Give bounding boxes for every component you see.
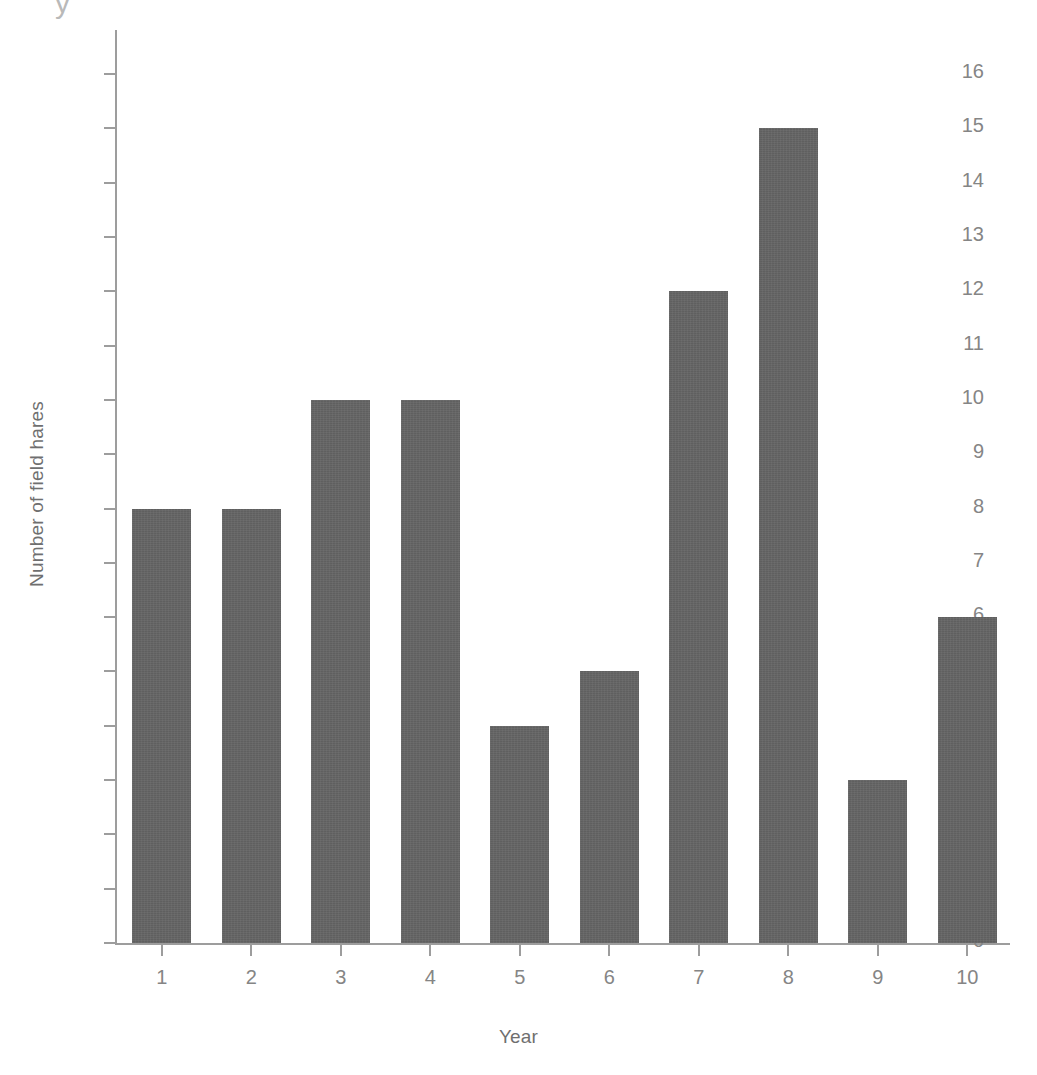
y-tick-mark xyxy=(104,942,115,944)
bar xyxy=(132,509,191,944)
y-tick-mark xyxy=(104,779,115,781)
y-tick-label: 12 xyxy=(924,277,984,300)
y-tick-mark xyxy=(104,562,115,564)
x-tick-mark xyxy=(966,945,968,956)
y-tick-mark xyxy=(104,127,115,129)
x-tick-label: 8 xyxy=(748,966,828,989)
x-axis-line xyxy=(115,943,1010,945)
y-tick-label: 9 xyxy=(924,440,984,463)
y-tick-mark xyxy=(104,73,115,75)
bar xyxy=(848,780,907,943)
y-tick-mark xyxy=(104,453,115,455)
bar xyxy=(759,128,818,943)
x-axis-title: Year xyxy=(0,1026,1037,1048)
y-axis-title: Number of field hares xyxy=(26,374,48,614)
bar xyxy=(938,617,997,943)
x-tick-label: 2 xyxy=(211,966,291,989)
x-tick-label: 10 xyxy=(927,966,1007,989)
y-tick-mark xyxy=(104,399,115,401)
x-tick-label: 1 xyxy=(122,966,202,989)
y-tick-label: 11 xyxy=(924,332,984,355)
x-tick-mark xyxy=(608,945,610,956)
bar xyxy=(580,671,639,943)
y-tick-label: 7 xyxy=(924,549,984,572)
y-tick-mark xyxy=(104,182,115,184)
y-tick-label: 15 xyxy=(924,114,984,137)
x-tick-label: 5 xyxy=(480,966,560,989)
y-tick-mark xyxy=(104,508,115,510)
y-tick-mark xyxy=(104,616,115,618)
x-tick-label: 3 xyxy=(301,966,381,989)
x-tick-mark xyxy=(429,945,431,956)
bar xyxy=(490,726,549,943)
x-tick-mark xyxy=(161,945,163,956)
x-tick-mark xyxy=(519,945,521,956)
y-tick-label: 8 xyxy=(924,495,984,518)
y-axis-line xyxy=(115,30,117,945)
x-tick-mark xyxy=(877,945,879,956)
y-tick-mark xyxy=(104,236,115,238)
x-tick-label: 9 xyxy=(838,966,918,989)
x-tick-label: 7 xyxy=(659,966,739,989)
x-tick-label: 4 xyxy=(390,966,470,989)
x-tick-mark xyxy=(340,945,342,956)
bar xyxy=(222,509,281,944)
bar xyxy=(669,291,728,943)
x-tick-label: 6 xyxy=(569,966,649,989)
bar-chart-figure: y Number of field hares Year 01234567891… xyxy=(0,0,1037,1075)
x-tick-mark xyxy=(787,945,789,956)
y-tick-label: 14 xyxy=(924,169,984,192)
y-tick-mark xyxy=(104,833,115,835)
bar xyxy=(401,400,460,943)
plot-area: 012345678910111213141516 12345678910 xyxy=(115,30,1010,945)
y-tick-label: 10 xyxy=(924,386,984,409)
y-tick-mark xyxy=(104,888,115,890)
y-tick-mark xyxy=(104,670,115,672)
y-tick-label: 13 xyxy=(924,223,984,246)
top-edge-clipped-glyph: y xyxy=(55,0,70,20)
y-tick-label: 16 xyxy=(924,60,984,83)
y-tick-mark xyxy=(104,725,115,727)
x-tick-mark xyxy=(250,945,252,956)
bar xyxy=(311,400,370,943)
y-tick-mark xyxy=(104,345,115,347)
y-tick-mark xyxy=(104,290,115,292)
x-tick-mark xyxy=(698,945,700,956)
